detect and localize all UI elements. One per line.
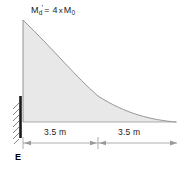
dimension-arrow-mid-right [99, 141, 106, 145]
diagram-canvas [0, 0, 189, 170]
dimension-arrow-end [170, 141, 177, 146]
dimension-label-left: 3.5 m [44, 127, 66, 137]
moment-prime: ' [42, 3, 44, 12]
moment-equals: = 4 [44, 5, 57, 15]
moment-symbol: M [31, 5, 39, 15]
dimension-arrow-mid-left [90, 141, 97, 145]
dimension-arrow-left [24, 141, 31, 145]
moment-term-subscript: 0 [72, 9, 76, 16]
bending-moment-diagram: Md'= 4xM0 3.5 m 3.5 m E [0, 0, 189, 170]
moment-term-symbol: M [64, 5, 72, 15]
dimension-label-right: 3.5 m [118, 127, 140, 137]
support-hatching [13, 103, 19, 144]
moment-value-label: Md'= 4xM0 [31, 5, 75, 15]
support-node-label: E [15, 152, 21, 162]
moment-area-hatch [23, 18, 177, 123]
